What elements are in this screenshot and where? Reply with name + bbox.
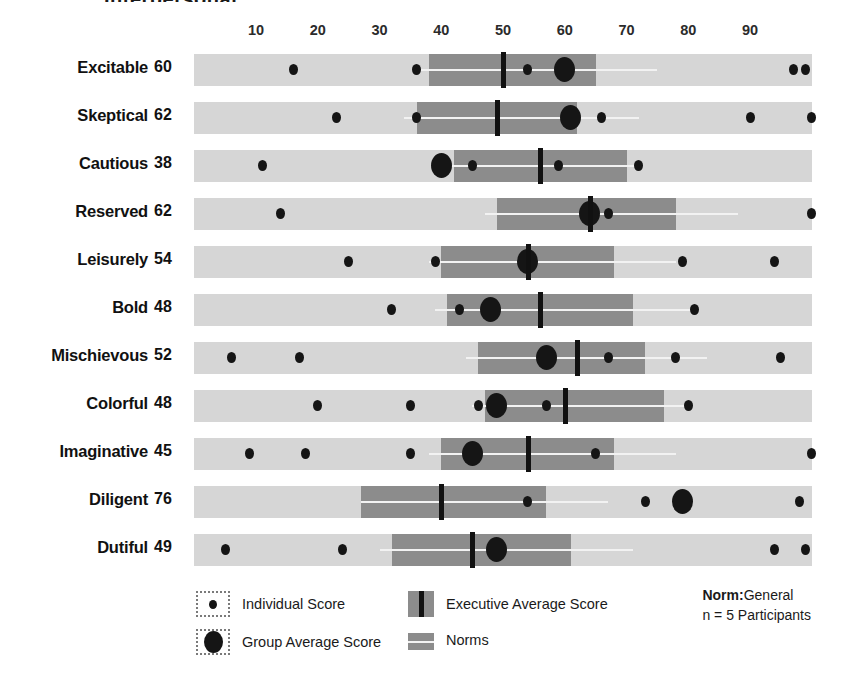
- x-axis-tick: 30: [360, 22, 400, 38]
- chart-row: Colorful48: [0, 384, 855, 432]
- individual-score-dot: [289, 64, 298, 75]
- row-label: Leisurely: [0, 250, 148, 269]
- individual-score-dot: [795, 496, 804, 507]
- x-axis-tick: 10: [236, 22, 276, 38]
- row-label: Colorful: [0, 394, 148, 413]
- norm-value: General: [744, 587, 794, 603]
- row-label: Imaginative: [0, 442, 148, 461]
- norm-line: Norm:General: [702, 585, 811, 605]
- group-average-dot: [672, 489, 693, 514]
- row-score: 48: [154, 298, 184, 316]
- band-midline: [361, 501, 608, 503]
- participants-line: n = 5 Participants: [702, 605, 811, 625]
- individual-score-dot: [807, 112, 816, 123]
- x-axis-tick: 70: [607, 22, 647, 38]
- individual-score-dot: [431, 256, 440, 267]
- band-midline: [435, 309, 694, 311]
- band-midline: [417, 69, 658, 71]
- x-axis-tick: 90: [730, 22, 770, 38]
- individual-score-dot: [406, 400, 415, 411]
- legend-label-norms: Norms: [446, 632, 489, 648]
- legend-label-group-average-score: Group Average Score: [242, 634, 381, 650]
- chart-row: Leisurely54: [0, 240, 855, 288]
- group-average-dot: [462, 441, 483, 466]
- x-axis-tick: 20: [298, 22, 338, 38]
- row-label: Bold: [0, 298, 148, 317]
- group-average-score-icon: [196, 629, 230, 655]
- row-score: 54: [154, 250, 184, 268]
- executive-average-marker: [588, 196, 593, 232]
- row-score: 62: [154, 202, 184, 220]
- individual-score-icon: [196, 591, 230, 617]
- group-average-dot: [536, 345, 557, 370]
- individual-score-dot: [221, 544, 230, 555]
- row-score: 76: [154, 490, 184, 508]
- chart-row: Reserved62: [0, 192, 855, 240]
- legend-item-group-average-score: Group Average Score: [196, 629, 381, 655]
- chart-row: Mischievous52: [0, 336, 855, 384]
- x-axis-tick: 50: [483, 22, 523, 38]
- chart-row: Imaginative45: [0, 432, 855, 480]
- executive-average-marker: [439, 484, 444, 520]
- legend-item-norms: Norms: [408, 629, 489, 650]
- norms-icon: [408, 633, 434, 650]
- executive-average-marker: [575, 340, 580, 376]
- individual-score-dot: [542, 400, 551, 411]
- chart-row: Diligent76: [0, 480, 855, 528]
- chart-row: Skeptical62: [0, 96, 855, 144]
- row-score: 45: [154, 442, 184, 460]
- row-score: 52: [154, 346, 184, 364]
- individual-score-dot: [301, 448, 310, 459]
- executive-average-marker: [563, 388, 568, 424]
- x-axis: 102030405060708090: [0, 22, 855, 44]
- x-axis-tick: 40: [421, 22, 461, 38]
- row-label: Skeptical: [0, 106, 148, 125]
- executive-average-marker: [501, 52, 506, 88]
- individual-score-dot: [641, 496, 650, 507]
- x-axis-tick: 80: [668, 22, 708, 38]
- executive-average-marker: [526, 244, 531, 280]
- row-score: 60: [154, 58, 184, 76]
- chart-row: Cautious38: [0, 144, 855, 192]
- individual-score-dot: [678, 256, 687, 267]
- row-label: Cautious: [0, 154, 148, 173]
- chart-row: Excitable60: [0, 48, 855, 96]
- legend-item-executive-average-score: Executive Average Score: [408, 591, 608, 617]
- individual-score-dot: [406, 448, 415, 459]
- individual-score-dot: [807, 448, 816, 459]
- chart-legend: Individual Score Group Average Score Exe…: [0, 585, 855, 655]
- legend-label-executive-average-score: Executive Average Score: [446, 596, 608, 612]
- row-score: 62: [154, 106, 184, 124]
- row-score: 49: [154, 538, 184, 556]
- executive-average-marker: [495, 100, 500, 136]
- x-axis-tick: 60: [545, 22, 585, 38]
- chart-row: Dutiful49: [0, 528, 855, 576]
- individual-score-dot: [789, 64, 798, 75]
- row-label: Mischievous: [0, 346, 148, 365]
- individual-score-dot: [690, 304, 699, 315]
- executive-average-marker: [470, 532, 475, 568]
- individual-score-dot: [332, 112, 341, 123]
- individual-score-dot: [684, 400, 693, 411]
- row-score: 38: [154, 154, 184, 172]
- row-label: Excitable: [0, 58, 148, 77]
- norm-title: Norm:: [702, 587, 743, 603]
- group-average-dot: [431, 153, 452, 178]
- individual-score-dot: [604, 208, 613, 219]
- individual-score-dot: [604, 352, 613, 363]
- individual-score-dot: [746, 112, 755, 123]
- individual-score-dot: [807, 208, 816, 219]
- individual-score-dot: [468, 160, 477, 171]
- row-label: Reserved: [0, 202, 148, 221]
- chart-rows: Excitable60Skeptical62Cautious38Reserved…: [0, 48, 855, 576]
- individual-score-dot: [227, 352, 236, 363]
- executive-average-marker: [538, 148, 543, 184]
- chart-row: Bold48: [0, 288, 855, 336]
- individual-score-dot: [338, 544, 347, 555]
- individual-score-dot: [474, 400, 483, 411]
- executive-average-score-icon: [408, 591, 434, 617]
- individual-score-dot: [258, 160, 267, 171]
- row-label: Dutiful: [0, 538, 148, 557]
- legend-label-individual-score: Individual Score: [242, 596, 345, 612]
- row-label: Diligent: [0, 490, 148, 509]
